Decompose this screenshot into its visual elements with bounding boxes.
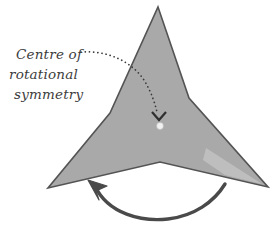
centre-of-rotation-dot <box>157 123 164 130</box>
rotation-arc <box>95 184 225 220</box>
rotational-symmetry-diagram: Centre of rotational symmetry <box>0 0 277 225</box>
label-line-2: rotational <box>9 66 78 82</box>
rotation-arrowhead-icon <box>88 180 107 200</box>
rotation-arrow-group <box>88 180 225 220</box>
diagram-canvas: Centre of rotational symmetry <box>0 0 277 225</box>
label-line-1: Centre of <box>16 46 84 62</box>
label-centre-of-rotational-symmetry: Centre of rotational symmetry <box>9 46 84 102</box>
label-line-3: symmetry <box>14 86 83 102</box>
